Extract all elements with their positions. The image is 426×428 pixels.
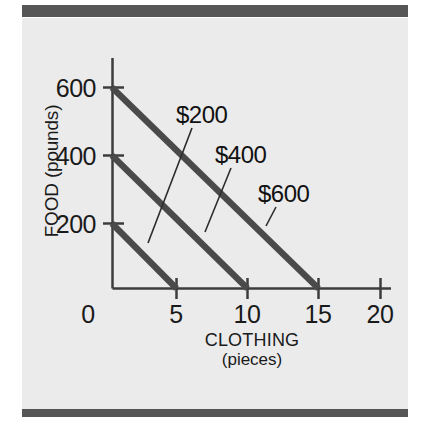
chart-figure: 600 400 200 0 5 10 15 20 FOOD (pounds) C… xyxy=(0,0,426,428)
x-tick-label-5: 5 xyxy=(151,300,201,329)
x-axis-title: CLOTHING xyxy=(162,330,342,351)
y-axis-title: FOOD (pounds) xyxy=(41,81,63,261)
x-tick-label-10: 10 xyxy=(222,300,272,329)
series-label-200: $200 xyxy=(176,101,227,129)
budget-line-200 xyxy=(112,224,177,289)
x-tick-label-20: 20 xyxy=(355,300,405,329)
series-label-400: $400 xyxy=(215,141,266,169)
x-tick-label-15: 15 xyxy=(293,300,343,329)
series-label-600: $600 xyxy=(258,180,309,208)
x-axis-subtitle: (pieces) xyxy=(162,350,342,370)
x-tick-label-0: 0 xyxy=(63,300,113,329)
leader-line-600 xyxy=(266,207,276,226)
